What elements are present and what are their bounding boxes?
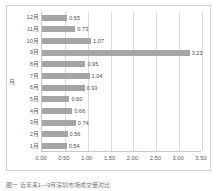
x-tick-label: 3.50 — [195, 154, 206, 162]
x-tick-label: 0.50 — [58, 154, 69, 162]
bar-value-label: 0.93 — [87, 85, 98, 91]
category-label: 7月 — [30, 70, 39, 82]
x-tick-label: 2.50 — [150, 154, 161, 162]
bar — [42, 143, 67, 149]
category-label: 6月 — [30, 82, 39, 94]
bar-row: 0.95 — [42, 59, 201, 71]
bar — [42, 26, 75, 32]
bar-chart-figure: 月 1月2月3月4月5月6月7月8月9月10月11月12月 0.540.560.… — [0, 0, 217, 191]
bar — [42, 96, 69, 102]
plot-area: 0.540.560.740.660.600.931.040.953.231.07… — [41, 12, 201, 152]
bar-row: 0.55 — [42, 12, 201, 24]
bar-row: 3.23 — [42, 47, 201, 59]
category-label: 10月 — [27, 35, 39, 47]
bar — [42, 131, 68, 137]
y-axis-category-labels: 1月2月3月4月5月6月7月8月9月10月11月12月 — [14, 12, 39, 152]
category-label: 4月 — [30, 105, 39, 117]
bar-value-label: 0.56 — [70, 131, 81, 137]
bar-value-label: 3.23 — [192, 50, 203, 56]
bar-row: 0.54 — [42, 140, 201, 152]
bar — [42, 73, 90, 79]
bar-value-label: 1.04 — [92, 73, 103, 79]
x-tick-label: 0.00 — [35, 154, 46, 162]
x-tick-label: 2.00 — [127, 154, 138, 162]
category-label: 12月 — [27, 12, 39, 24]
bar — [42, 61, 85, 67]
bar-row: 1.07 — [42, 35, 201, 47]
bar-row: 0.60 — [42, 94, 201, 106]
bar-value-label: 0.66 — [74, 108, 85, 114]
bar-row: 0.66 — [42, 105, 201, 117]
category-label: 3月 — [30, 117, 39, 129]
x-axis-tick-labels: 0.000.501.001.502.002.503.003.50 — [41, 154, 201, 164]
bar — [42, 38, 91, 44]
bar — [42, 50, 190, 56]
bar-rows: 0.540.560.740.660.600.931.040.953.231.07… — [42, 12, 201, 151]
bar-value-label: 0.54 — [69, 143, 80, 149]
category-label: 1月 — [30, 140, 39, 152]
bar — [42, 85, 85, 91]
bar — [42, 15, 67, 21]
bar — [42, 108, 72, 114]
x-tick-label: 1.00 — [81, 154, 92, 162]
category-label: 5月 — [30, 94, 39, 106]
bar-value-label: 0.74 — [78, 120, 89, 126]
category-label: 2月 — [30, 129, 39, 141]
bar-value-label: 1.07 — [93, 38, 104, 44]
x-tick-label: 1.50 — [104, 154, 115, 162]
bar-value-label: 0.60 — [71, 96, 82, 102]
bar — [42, 120, 76, 126]
bar-value-label: 0.55 — [69, 15, 80, 21]
category-label: 9月 — [30, 47, 39, 59]
figure-caption: 图一 近年来1—9月深圳市场成交量对比 — [6, 181, 211, 190]
bar-row: 1.04 — [42, 70, 201, 82]
bar-row: 0.74 — [42, 117, 201, 129]
gridline — [202, 12, 203, 151]
category-label: 11月 — [27, 24, 39, 36]
category-label: 8月 — [30, 59, 39, 71]
bar-value-label: 0.95 — [87, 61, 98, 67]
bar-row: 0.56 — [42, 129, 201, 141]
x-tick-label: 3.00 — [172, 154, 183, 162]
bar-value-label: 0.73 — [77, 26, 88, 32]
bar-row: 0.73 — [42, 24, 201, 36]
bar-row: 0.93 — [42, 82, 201, 94]
